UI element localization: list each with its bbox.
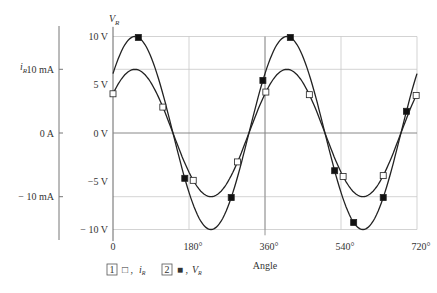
right-axis-title: VR <box>109 13 120 27</box>
x-tick-label: 0 <box>111 241 116 252</box>
vr-marker <box>135 34 141 40</box>
ir-marker <box>306 92 312 98</box>
svg-text:VR: VR <box>192 264 202 276</box>
x-tick-label: 360° <box>260 241 279 252</box>
v-tick-label: − 10 V <box>80 224 108 235</box>
v-tick-label: −5 V <box>88 176 109 187</box>
vr-marker <box>182 175 188 181</box>
x-tick-label: 720° <box>412 241 431 252</box>
phase-chart: 10 mA0 A− 10 mA10 V5 V0 V−5 V− 10 V0180°… <box>0 0 437 293</box>
x-tick-label: 540° <box>336 241 355 252</box>
ir-marker <box>235 159 241 165</box>
v-tick-label: 0 V <box>93 128 108 139</box>
legend-item-vr: 2 ■ , VR <box>162 264 202 276</box>
svg-text:2: 2 <box>165 264 170 275</box>
left-tick-label: 0 A <box>40 128 55 139</box>
legend: 1 □ , iR 2 ■ , VR <box>107 264 202 276</box>
legend-item-ir: 1 □ , iR <box>107 264 146 276</box>
ir-marker <box>190 177 196 183</box>
svg-text:■ ,: ■ , <box>177 264 188 275</box>
ir-marker <box>263 89 269 95</box>
vr-marker <box>332 168 338 174</box>
svg-text:1: 1 <box>110 264 115 275</box>
tick-labels: 10 mA0 A− 10 mA10 V5 V0 V−5 V− 10 V0180°… <box>18 31 430 252</box>
x-tick-label: 180° <box>184 241 203 252</box>
ir-marker <box>340 173 346 179</box>
axes <box>59 26 417 241</box>
vr-marker <box>380 195 386 201</box>
x-axis-title: Angle <box>253 260 278 271</box>
svg-text:iR: iR <box>139 264 146 276</box>
left-tick-label: − 10 mA <box>18 191 54 202</box>
ir-marker <box>413 93 419 99</box>
ir-marker <box>110 91 116 97</box>
ir-marker <box>380 173 386 179</box>
vr-marker <box>260 77 266 83</box>
vr-marker <box>287 34 293 40</box>
svg-text:□ ,: □ , <box>122 264 133 275</box>
ir-marker <box>160 104 166 110</box>
vr-marker <box>228 195 234 201</box>
v-tick-label: 5 V <box>93 79 108 90</box>
grid-lines <box>113 37 417 236</box>
vr-marker <box>351 219 357 225</box>
vr-marker <box>403 108 409 114</box>
v-tick-label: 10 V <box>88 31 108 42</box>
left-tick-label: 10 mA <box>27 64 55 75</box>
